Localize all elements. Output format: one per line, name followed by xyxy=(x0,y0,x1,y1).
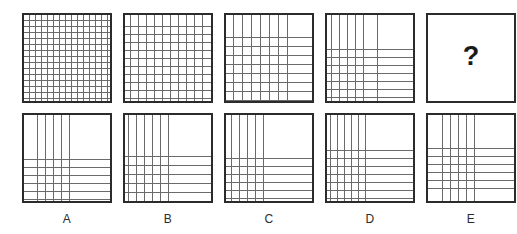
sequence-panel-4-horizontal-line xyxy=(327,81,413,82)
option-panel-b-horizontal-line xyxy=(125,174,211,175)
sequence-panel-2-horizontal-line xyxy=(125,34,211,35)
option-panel-e-grid xyxy=(428,115,514,201)
sequence-panel-3-horizontal-line xyxy=(226,37,312,38)
option-panel-a-vertical-line xyxy=(37,115,38,201)
option-panel-b-vertical-line xyxy=(136,115,137,201)
missing-cell-question-mark: ? xyxy=(428,15,514,101)
sequence-panel-2-horizontal-line xyxy=(125,42,211,43)
sequence-panel-3-horizontal-line xyxy=(226,55,312,56)
option-panel-e-horizontal-line xyxy=(428,148,514,149)
sequence-panel-3-horizontal-line xyxy=(226,46,312,47)
option-panel-e-horizontal-line xyxy=(428,164,514,165)
option-panel-e-horizontal-line xyxy=(428,180,514,181)
option-panel-b-vertical-line xyxy=(168,115,169,201)
option-panel-a-vertical-line xyxy=(61,115,62,201)
sequence-panel-1-horizontal-line xyxy=(24,80,110,81)
sequence-panel-2-horizontal-line xyxy=(125,74,211,75)
option-panel-b-horizontal-line xyxy=(125,192,211,193)
sequence-panel-1-horizontal-line xyxy=(24,32,110,33)
sequence-panel-1-horizontal-line xyxy=(24,38,110,39)
sequence-panel-1-horizontal-line xyxy=(24,68,110,69)
option-panel-a-horizontal-line xyxy=(24,199,110,200)
sequence-panel-5: ? xyxy=(426,13,516,103)
option-panel-a-grid xyxy=(24,115,110,201)
option-panel-d-horizontal-line xyxy=(327,182,413,183)
sequence-panel-1-vertical-line xyxy=(29,15,30,101)
option-panel-d-horizontal-line xyxy=(327,150,413,151)
option-panel-c-horizontal-line xyxy=(226,182,312,183)
sequence-panel-2-grid xyxy=(125,15,211,101)
option-panel-c-horizontal-line xyxy=(226,174,312,175)
option-panel-e-horizontal-line xyxy=(428,172,514,173)
option-panel-e-horizontal-line xyxy=(428,156,514,157)
option-panel-d[interactable] xyxy=(325,113,415,203)
sequence-panel-4-horizontal-line xyxy=(327,89,413,90)
sequence-panel-1-vertical-line xyxy=(89,15,90,101)
sequence-panel-2-horizontal-line xyxy=(125,98,211,99)
sequence-panel-1-vertical-line xyxy=(71,15,72,101)
sequence-panel-4-horizontal-line xyxy=(327,57,413,58)
sequence-panel-2-horizontal-line xyxy=(125,26,211,27)
sequence-panel-1-vertical-line xyxy=(47,15,48,101)
option-label-c: C xyxy=(224,212,314,226)
option-panel-d-horizontal-line xyxy=(327,190,413,191)
option-panel-d-horizontal-line xyxy=(327,166,413,167)
option-panel-b-vertical-line xyxy=(160,115,161,201)
sequence-panel-3-vertical-line xyxy=(233,15,234,101)
sequence-panel-3-vertical-line xyxy=(269,15,270,101)
option-panel-c-grid xyxy=(226,115,312,201)
option-panel-c-horizontal-line xyxy=(226,190,312,191)
sequence-panel-3-horizontal-line xyxy=(226,82,312,83)
option-panel-e[interactable] xyxy=(426,113,516,203)
option-panel-b-vertical-line xyxy=(144,115,145,201)
sequence-panel-1-vertical-line xyxy=(77,15,78,101)
option-panel-d-grid xyxy=(327,115,413,201)
option-panel-b[interactable] xyxy=(123,113,213,203)
sequence-panel-1-horizontal-line xyxy=(24,26,110,27)
sequence-panel-1-horizontal-line xyxy=(24,86,110,87)
sequence-panel-1-horizontal-line xyxy=(24,92,110,93)
sequence-panel-3-horizontal-line xyxy=(226,73,312,74)
option-panel-b-vertical-line xyxy=(152,115,153,201)
sequence-panel-3-vertical-line xyxy=(242,15,243,101)
sequence-panel-1-horizontal-line xyxy=(24,50,110,51)
sequence-panel-3-horizontal-line xyxy=(226,100,312,101)
option-panel-b-vertical-line xyxy=(128,115,129,201)
option-panel-a-vertical-line xyxy=(45,115,46,201)
sequence-panel-1-vertical-line xyxy=(107,15,108,101)
sequence-panel-1-vertical-line xyxy=(53,15,54,101)
sequence-panel-4-grid xyxy=(327,15,413,101)
sequence-panel-3-vertical-line xyxy=(251,15,252,101)
sequence-panel-1-vertical-line xyxy=(65,15,66,101)
sequence-panel-1-horizontal-line xyxy=(24,74,110,75)
option-panel-a-horizontal-line xyxy=(24,167,110,168)
sequence-panel-1-vertical-line xyxy=(83,15,84,101)
sequence-panel-1-horizontal-line xyxy=(24,44,110,45)
option-panel-a[interactable] xyxy=(22,113,112,203)
sequence-panel-1-vertical-line xyxy=(59,15,60,101)
sequence-panel-2-horizontal-line xyxy=(125,50,211,51)
sequence-panel-1-horizontal-line xyxy=(24,56,110,57)
option-panel-d-horizontal-line xyxy=(327,198,413,199)
option-label-d: D xyxy=(325,212,415,226)
sequence-panel-1-horizontal-line xyxy=(24,62,110,63)
sequence-panel-1-vertical-line xyxy=(95,15,96,101)
option-panel-a-vertical-line xyxy=(69,115,70,201)
sequence-panel-2-horizontal-line xyxy=(125,82,211,83)
option-panel-b-horizontal-line xyxy=(125,156,211,157)
sequence-panel-3 xyxy=(224,13,314,103)
sequence-panel-1-horizontal-line xyxy=(24,20,110,21)
sequence-panel-3-horizontal-line xyxy=(226,91,312,92)
option-label-b: B xyxy=(123,212,213,226)
sequence-panel-3-horizontal-line xyxy=(226,64,312,65)
option-panel-d-horizontal-line xyxy=(327,158,413,159)
sequence-panel-3-vertical-line xyxy=(260,15,261,101)
sequence-panel-2-horizontal-line xyxy=(125,66,211,67)
option-panel-c[interactable] xyxy=(224,113,314,203)
option-panel-a-horizontal-line xyxy=(24,191,110,192)
sequence-panel-4-horizontal-line xyxy=(327,73,413,74)
option-panel-c-horizontal-line xyxy=(226,158,312,159)
option-panel-a-horizontal-line xyxy=(24,159,110,160)
sequence-panel-4 xyxy=(325,13,415,103)
option-panel-c-horizontal-line xyxy=(226,166,312,167)
